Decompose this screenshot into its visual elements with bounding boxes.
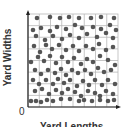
dot <box>70 68 75 73</box>
dot <box>106 78 111 83</box>
dot <box>66 60 71 65</box>
dot <box>111 45 116 50</box>
dot <box>47 92 52 97</box>
dot <box>71 44 76 49</box>
dot <box>81 79 86 84</box>
dot <box>33 68 38 73</box>
dot <box>113 82 118 87</box>
dot <box>114 28 119 33</box>
dot <box>29 99 34 104</box>
dot <box>102 70 107 75</box>
dot <box>64 48 69 53</box>
dot <box>55 25 60 30</box>
dot <box>77 49 82 54</box>
dot <box>67 15 72 20</box>
dot <box>79 62 84 67</box>
dot <box>38 50 43 55</box>
dot <box>99 15 104 20</box>
dot <box>73 90 78 95</box>
dot <box>68 33 73 38</box>
dot <box>87 83 92 88</box>
dot <box>93 78 98 83</box>
dot <box>46 68 51 73</box>
dot <box>37 82 42 87</box>
dot <box>36 55 41 60</box>
dot <box>54 88 59 93</box>
dot <box>51 82 56 87</box>
dot <box>104 48 109 53</box>
dot <box>51 34 56 39</box>
dot <box>44 43 49 48</box>
dot <box>68 97 73 102</box>
dot <box>42 59 47 64</box>
dot <box>39 72 44 77</box>
dot <box>68 78 73 83</box>
dot <box>34 34 39 39</box>
dot <box>112 16 117 21</box>
dot <box>44 78 49 83</box>
dot <box>85 57 90 62</box>
dot <box>76 71 81 76</box>
dot <box>97 42 102 47</box>
dot <box>109 68 114 73</box>
dot <box>29 60 34 65</box>
dot <box>77 16 82 21</box>
dot <box>60 55 65 60</box>
dot <box>91 25 96 30</box>
dot <box>66 87 71 92</box>
dot <box>31 28 36 33</box>
dot <box>39 100 44 105</box>
dot <box>53 71 58 76</box>
dot <box>91 60 96 65</box>
dot <box>112 98 117 103</box>
dot <box>89 72 94 77</box>
dot <box>73 23 78 28</box>
dot <box>83 68 88 73</box>
dot <box>75 84 80 89</box>
dot <box>31 78 36 83</box>
dot <box>48 54 53 59</box>
dot <box>91 47 96 52</box>
dot <box>77 36 82 41</box>
dot <box>58 16 63 21</box>
dot <box>32 44 37 49</box>
dot <box>72 56 77 61</box>
dot <box>104 89 109 94</box>
dot <box>89 16 94 21</box>
dot <box>96 66 101 71</box>
dot <box>111 36 116 41</box>
dot <box>39 26 44 31</box>
dot <box>111 92 116 97</box>
dot <box>90 99 95 104</box>
dot <box>56 77 61 82</box>
dot <box>84 44 89 49</box>
dot <box>59 67 64 72</box>
dot <box>82 98 87 103</box>
dot <box>62 81 67 86</box>
dot <box>33 89 38 94</box>
dot <box>106 58 111 63</box>
origin-label: 0 <box>19 106 25 117</box>
dot <box>93 91 98 96</box>
dot <box>98 98 103 103</box>
dot <box>98 54 103 59</box>
dot <box>54 61 59 66</box>
dot <box>43 38 48 43</box>
dot <box>85 32 90 37</box>
dot <box>79 94 84 99</box>
dot <box>64 27 69 32</box>
dot <box>60 37 65 42</box>
dot <box>106 99 111 104</box>
dot <box>51 99 56 104</box>
dot <box>48 29 53 34</box>
dot <box>34 99 39 104</box>
dots <box>29 15 119 105</box>
dot <box>45 98 50 103</box>
dot <box>86 89 91 94</box>
dot <box>48 15 53 20</box>
dot <box>59 97 64 102</box>
dot <box>57 43 62 48</box>
dot <box>80 26 85 31</box>
dot <box>104 31 109 36</box>
dot <box>60 91 65 96</box>
